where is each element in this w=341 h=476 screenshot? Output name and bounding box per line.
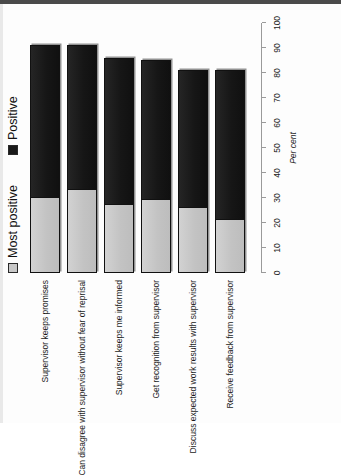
light-square-swatch-icon — [8, 263, 18, 273]
bar-segment-positive — [68, 47, 96, 190]
bar-segment-most-positive — [142, 200, 170, 273]
bar-row: Discuss expected work results with super… — [178, 23, 208, 273]
axis-tick — [262, 172, 266, 173]
stacked-bar — [178, 71, 208, 274]
legend-label-positive: Positive — [6, 96, 20, 140]
stacked-bar — [215, 71, 245, 274]
plot-area: Supervisor keeps promisesCan disagree wi… — [30, 23, 262, 273]
legend-label-most-positive: Most positive — [6, 185, 20, 258]
axis-tick — [262, 47, 266, 48]
axis-tick-label: 60 — [272, 118, 282, 127]
bar-segment-positive — [31, 47, 59, 198]
axis-tick-label: 90 — [272, 43, 282, 52]
bar-segment-most-positive — [179, 207, 207, 272]
bar-segment-most-positive — [105, 205, 133, 273]
axis-tick — [262, 97, 266, 98]
category-label: Supervisor keeps me informed — [114, 280, 124, 395]
axis-tick-label: 40 — [272, 168, 282, 177]
legend-item-positive: Positive — [6, 96, 20, 155]
bar-segment-positive — [216, 72, 244, 220]
bar-segment-positive — [142, 62, 170, 200]
axis-tick-label: 100 — [272, 16, 282, 30]
axis-tick-label: 10 — [272, 243, 282, 252]
bar-segment-most-positive — [68, 190, 96, 273]
bar-segment-most-positive — [31, 197, 59, 272]
bar-row: Supervisor keeps me informed — [104, 23, 134, 273]
axis-tick — [262, 72, 266, 73]
axis-tick — [262, 22, 266, 23]
value-axis-line — [261, 23, 262, 273]
category-label: Receive feedback from supervisor — [225, 280, 235, 409]
axis-tick-label: 70 — [272, 93, 282, 102]
stacked-bar — [67, 46, 97, 274]
category-label: Get recognition from supervisor — [151, 280, 161, 399]
axis-tick — [262, 122, 266, 123]
bar-segment-positive — [105, 59, 133, 205]
category-label: Discuss expected work results with super… — [188, 280, 198, 453]
axis-tick-label: 80 — [272, 68, 282, 77]
axis-tick — [262, 197, 266, 198]
axis-tick — [262, 247, 266, 248]
chart-legend: Most positive Positive — [6, 96, 20, 273]
legend-item-most-positive: Most positive — [6, 185, 20, 273]
axis-tick-label: 50 — [272, 143, 282, 152]
axis-title-per-cent: Per cent — [288, 132, 298, 164]
axis-tick — [262, 272, 266, 273]
axis-tick — [262, 147, 266, 148]
bar-group: Supervisor keeps promisesCan disagree wi… — [30, 23, 261, 273]
axis-tick-label: 30 — [272, 193, 282, 202]
stacked-bar — [30, 46, 60, 274]
bar-row: Supervisor keeps promises — [30, 23, 60, 273]
category-label: Supervisor keeps promises — [40, 280, 50, 383]
bar-row: Receive feedback from supervisor — [215, 23, 245, 273]
axis-tick-label: 20 — [272, 218, 282, 227]
stacked-bar — [141, 61, 171, 274]
bar-segment-most-positive — [216, 220, 244, 273]
bar-row: Get recognition from supervisor — [141, 23, 171, 273]
axis-tick — [262, 222, 266, 223]
stacked-bar — [104, 58, 134, 273]
category-label: Can disagree with supervisor without fea… — [77, 280, 87, 476]
axis-tick-label: 0 — [272, 271, 282, 276]
dark-square-swatch-icon — [8, 145, 18, 155]
bar-segment-positive — [179, 72, 207, 208]
bar-row: Can disagree with supervisor without fea… — [67, 23, 97, 273]
